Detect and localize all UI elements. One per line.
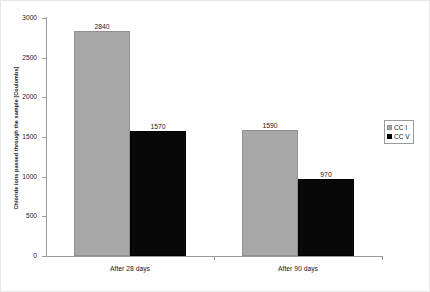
bar-cc-i-1: 2840 [74,31,130,256]
y-axis-tick-label: 1000 [1,173,37,180]
bar-value-label: 970 [320,171,331,178]
bar-cc-v-1: 1570 [130,131,186,256]
bar-chart-figure: Chloride ions passed through the sample … [0,0,430,292]
y-axis-tick-label: 2500 [1,54,37,61]
y-axis-tick-label: 500 [1,212,37,219]
x-axis-label-1: After 28 days [110,265,150,272]
bar-value-label: 2840 [94,23,109,30]
plot-area: 284015701590970 [46,18,382,256]
bar-cc-v-2: 970 [298,179,354,256]
legend-swatch-cc-i [387,125,392,130]
y-axis-tick [42,256,46,257]
y-axis-tick-label: 3000 [1,14,37,21]
bar-value-label: 1590 [262,122,277,129]
y-axis-tick-label: 0 [1,252,37,259]
legend-item-cc-v: CC V [387,132,410,141]
legend-label-cc-v: CC V [394,133,410,140]
x-axis-label-2: After 90 days [278,265,318,272]
y-axis-tick-label: 1500 [1,133,37,140]
legend-item-cc-i: CC I [387,123,410,132]
legend-label-cc-i: CC I [394,124,407,131]
chart-legend: CC I CC V [384,120,414,144]
legend-swatch-cc-v [387,134,392,139]
bar-value-label: 1570 [150,123,165,130]
y-axis-tick-label: 2000 [1,93,37,100]
bar-cc-i-2: 1590 [242,130,298,256]
x-axis-end-tick [382,256,383,260]
x-axis-tick [214,256,215,260]
